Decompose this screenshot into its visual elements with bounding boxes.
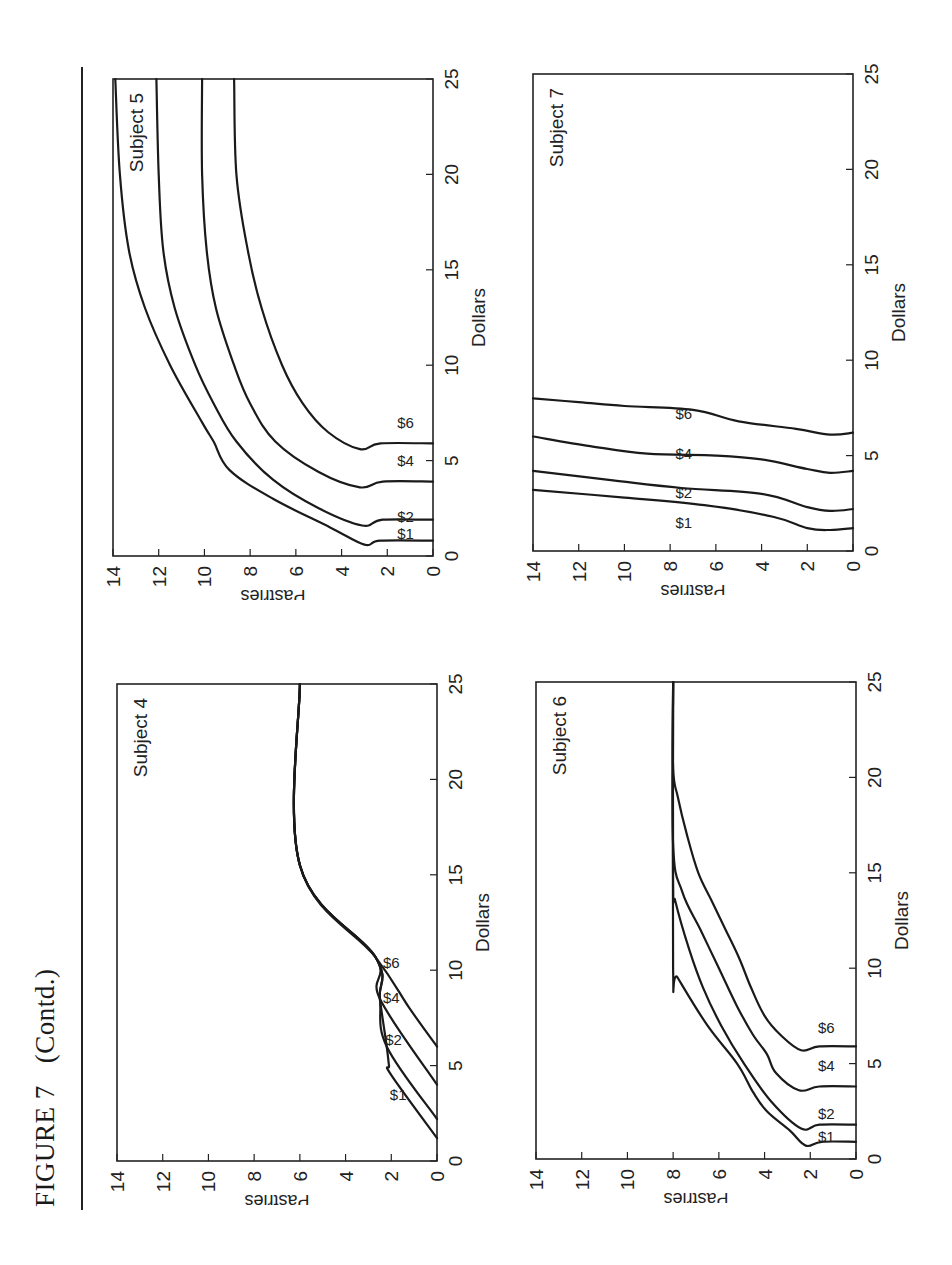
- y-tick-label: 8: [660, 561, 681, 572]
- y-tick-label: 8: [663, 1169, 684, 1180]
- x-tick-label: 10: [441, 355, 462, 376]
- series-line-usd6: [533, 398, 853, 434]
- y-tick-label: 12: [572, 1169, 593, 1190]
- y-tick-label: 14: [526, 1169, 547, 1191]
- panel-title: Subject 4: [130, 698, 151, 778]
- x-tick-label: 15: [861, 254, 882, 275]
- chart-subject-5: 051015202502468101214DollarsPastriesSubj…: [86, 40, 516, 600]
- y-tick-label: 0: [846, 1169, 867, 1180]
- x-tick-label: 15: [864, 862, 885, 883]
- panel-title: Subject 5: [126, 93, 147, 172]
- y-tick-label: 4: [752, 561, 773, 572]
- chart-subject-4: 051015202502468101214DollarsPastriesSubj…: [90, 645, 520, 1205]
- x-tick-label: 5: [445, 1060, 466, 1071]
- x-tick-label: 0: [861, 546, 882, 557]
- series-line-usd1: [673, 682, 856, 1146]
- series-label: $4: [397, 452, 414, 469]
- series-label: $6: [818, 1019, 835, 1036]
- x-axis-label: Dollars: [888, 283, 909, 342]
- x-tick-label: 10: [864, 958, 885, 979]
- x-tick-label: 5: [861, 450, 882, 461]
- x-axis-label: Dollars: [472, 893, 493, 952]
- x-tick-label: 20: [861, 159, 882, 180]
- x-tick-label: 5: [864, 1058, 885, 1069]
- y-axis-label: Pastries: [244, 1191, 309, 1205]
- x-tick-label: 25: [445, 673, 466, 694]
- x-tick-label: 0: [864, 1154, 885, 1165]
- series-label: $2: [397, 508, 414, 525]
- series-label: $1: [676, 514, 693, 531]
- series-line-usd6: [673, 682, 856, 1051]
- x-tick-label: 15: [441, 259, 462, 280]
- series-label: $2: [676, 484, 693, 501]
- x-tick-label: 10: [445, 960, 466, 981]
- y-tick-label: 2: [800, 1169, 821, 1180]
- y-tick-label: 6: [290, 1171, 311, 1182]
- chart-subject-7: 051015202502468101214DollarsPastriesSubj…: [506, 35, 936, 595]
- x-tick-label: 25: [861, 63, 882, 84]
- figure-number: FIGURE 7: [30, 1085, 60, 1207]
- x-tick-label: 0: [445, 1156, 466, 1167]
- x-axis-label: Dollars: [468, 288, 489, 347]
- x-tick-label: 15: [445, 864, 466, 885]
- plot-frame: [533, 74, 853, 551]
- x-tick-label: 20: [445, 769, 466, 790]
- title-rule: [81, 67, 83, 1210]
- y-tick-label: 2: [381, 1171, 402, 1182]
- y-tick-label: 0: [427, 1171, 448, 1182]
- series-label: $2: [385, 1031, 402, 1048]
- series-line-usd1: [533, 490, 853, 530]
- y-tick-label: 4: [755, 1169, 776, 1180]
- series-label: $4: [818, 1057, 835, 1074]
- x-axis-label: Dollars: [891, 891, 912, 950]
- series-label: $2: [818, 1105, 835, 1122]
- series-line-usd6: [294, 684, 437, 1047]
- y-tick-label: 6: [286, 566, 307, 577]
- plot-frame: [113, 79, 433, 556]
- panel-title: Subject 7: [546, 88, 567, 167]
- y-tick-label: 4: [336, 1171, 357, 1182]
- x-tick-label: 25: [441, 68, 462, 89]
- series-label: $1: [818, 1128, 835, 1145]
- y-tick-label: 10: [617, 1169, 638, 1190]
- series-label: $1: [397, 525, 414, 542]
- y-tick-label: 2: [797, 561, 818, 572]
- series-label: $1: [390, 1086, 407, 1103]
- series-label: $6: [397, 414, 414, 431]
- panel-title: Subject 6: [549, 696, 570, 775]
- x-tick-label: 20: [864, 767, 885, 788]
- series-line-usd6: [234, 79, 433, 450]
- figure-title: FIGURE 7(Contd.): [30, 968, 61, 1207]
- y-axis-label: Pastries: [663, 1189, 728, 1203]
- x-tick-label: 20: [441, 164, 462, 185]
- series-label: $4: [676, 445, 693, 462]
- y-tick-label: 6: [706, 561, 727, 572]
- y-tick-label: 4: [332, 566, 353, 577]
- y-tick-label: 12: [153, 1171, 174, 1192]
- chart-subject-6: 051015202502468101214DollarsPastriesSubj…: [509, 643, 939, 1203]
- y-tick-label: 14: [107, 1171, 128, 1193]
- y-tick-label: 8: [240, 566, 261, 577]
- series-label: $4: [383, 989, 400, 1006]
- figure-contd: (Contd.): [30, 968, 60, 1063]
- y-tick-label: 12: [569, 561, 590, 582]
- x-tick-label: 25: [864, 671, 885, 692]
- y-tick-label: 14: [103, 566, 124, 588]
- y-tick-label: 14: [523, 561, 544, 583]
- series-label: $6: [676, 405, 693, 422]
- y-tick-label: 2: [377, 566, 398, 577]
- y-axis-label: Pastries: [240, 586, 305, 600]
- series-label: $6: [383, 954, 400, 971]
- y-tick-label: 6: [709, 1169, 730, 1180]
- x-tick-label: 0: [441, 551, 462, 562]
- y-axis-label: Pastries: [660, 581, 725, 595]
- y-tick-label: 10: [198, 1171, 219, 1192]
- y-tick-label: 0: [843, 561, 864, 572]
- series-line-usd1: [294, 684, 437, 1138]
- y-tick-label: 10: [614, 561, 635, 582]
- series-line-usd4: [294, 684, 437, 1085]
- series-line-usd4: [533, 437, 853, 473]
- x-tick-label: 5: [441, 455, 462, 466]
- x-tick-label: 10: [861, 350, 882, 371]
- series-line-usd2: [156, 79, 433, 526]
